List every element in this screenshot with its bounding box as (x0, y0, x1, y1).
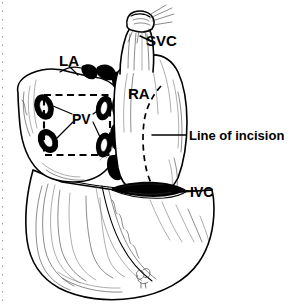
label-line-of-incision: Line of incision (189, 128, 284, 143)
cardiac-anatomy-illustration: SVC LA RA PV Line of incision IVC (0, 0, 298, 307)
label-la: LA (59, 52, 79, 69)
label-ivc: IVC (190, 184, 213, 200)
label-pv: PV (72, 111, 91, 127)
figure-container: SVC LA RA PV Line of incision IVC (0, 0, 298, 307)
label-ra: RA (128, 85, 150, 102)
label-svc: SVC (146, 32, 177, 49)
right-atrium-body (114, 55, 187, 194)
